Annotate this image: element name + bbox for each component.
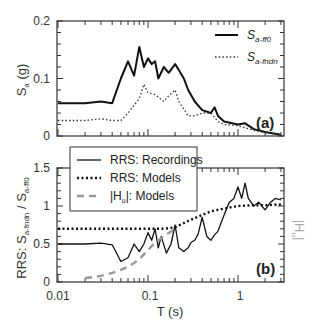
panel-b-xlabel: T (s) [157,304,183,319]
panel-a-ylabel: Sa (g) [14,64,31,97]
legend-label-hu-models: |Hu|: Models [110,189,174,204]
panel-b-legend: RRS: Recordings RRS: Models |Hu|: Models [70,147,203,211]
series-sa-fndn [58,84,281,135]
panel-a-ytick-0: 0 [43,129,50,143]
panel-b-tag: (b) [256,260,275,277]
panel-b-xtick-1: 1 [237,289,244,303]
panel-b-ytick-1.5: 1.5 [33,161,50,175]
panel-a-tag: (a) [256,114,274,131]
panel-a-ytick-0.2: 0.2 [33,14,50,28]
panel-b-ytick-0: 0 [43,275,50,289]
legend-label-rrs-models: RRS: Models [110,171,181,185]
figure: 0.2 0.1 0 Sa (g) Sa-ff0 Sa-fndn (a) 1.5 … [0,0,314,331]
panel-a-legend: Sa-ff0 Sa-fndn [215,28,278,66]
panel-b: 1.5 1 0.5 0 0.01 0.1 1 T (s) RRS: Sa-fnd… [14,147,307,319]
panel-b-ytick-0.5: 0.5 [33,237,50,251]
legend-label-rrs-recordings: RRS: Recordings [110,153,203,167]
legend-label-sa-fndn: Sa-fndn [247,50,278,66]
panel-b-ylabel-right: |Hu| [290,220,307,241]
panel-b-ytick-1: 1 [43,199,50,213]
legend-label-sa-ff0: Sa-ff0 [247,28,272,44]
panel-b-ylabel: RRS: Sa-fndn / Sa-ff0 [14,177,31,279]
panel-b-xtick-0.01: 0.01 [46,289,70,303]
panel-b-xtick-0.1: 0.1 [142,289,159,303]
panel-a-ytick-0.1: 0.1 [33,72,50,86]
panel-a: 0.2 0.1 0 Sa (g) Sa-ff0 Sa-fndn (a) [14,14,284,143]
